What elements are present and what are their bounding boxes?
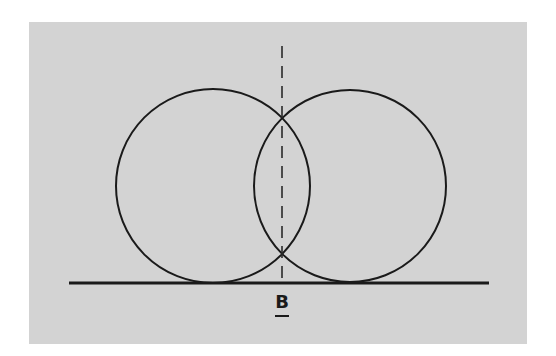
figure-label: B bbox=[275, 292, 289, 317]
label-container: B bbox=[266, 292, 298, 322]
